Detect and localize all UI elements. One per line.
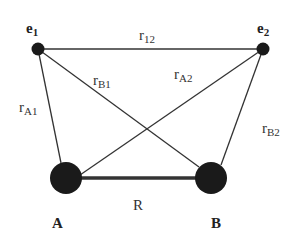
label-r12: r12 bbox=[139, 27, 155, 45]
label-rA1: rA1 bbox=[19, 99, 37, 117]
distance-diagram: e1 e2 A B r12 rA1 rB1 rA2 rB2 R bbox=[0, 0, 296, 241]
label-R: R bbox=[133, 197, 143, 213]
label-rA2: rA2 bbox=[174, 66, 192, 84]
node-A bbox=[50, 162, 82, 194]
node-e2 bbox=[257, 43, 270, 56]
label-rB1: rB1 bbox=[93, 72, 111, 90]
label-B: B bbox=[211, 215, 221, 231]
label-e1: e1 bbox=[26, 20, 38, 38]
edge-rA2 bbox=[80, 49, 263, 175]
node-e1 bbox=[32, 43, 45, 56]
edge-rB2 bbox=[221, 49, 263, 165]
label-rB2: rB2 bbox=[262, 120, 280, 138]
edge-rA1 bbox=[38, 49, 61, 163]
node-B bbox=[195, 162, 227, 194]
label-A: A bbox=[52, 215, 63, 231]
diagram-canvas: e1 e2 A B r12 rA1 rB1 rA2 rB2 R bbox=[0, 0, 296, 241]
label-e2: e2 bbox=[257, 20, 270, 38]
